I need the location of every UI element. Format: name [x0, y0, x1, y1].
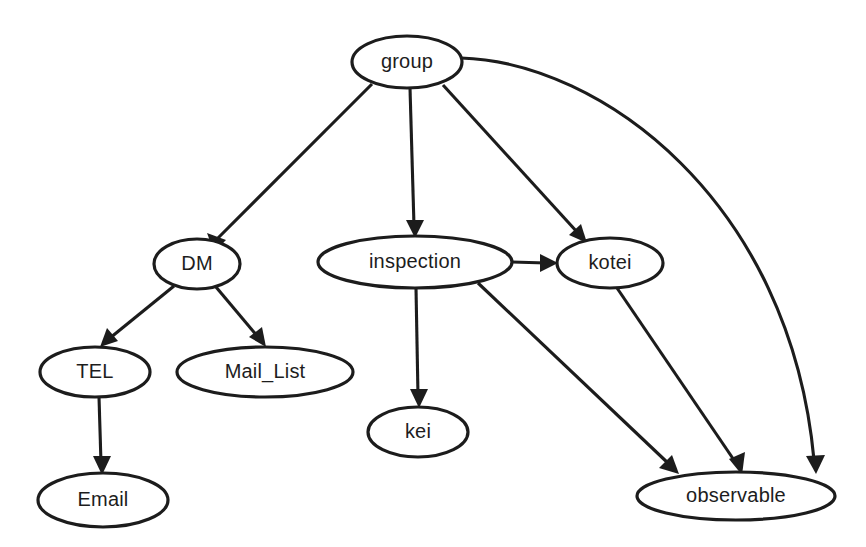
edge-line — [478, 283, 669, 464]
edge-kotei-to-observable — [617, 288, 745, 475]
arrowhead-icon — [410, 389, 428, 408]
node-label: Email — [77, 488, 128, 510]
node-kotei[interactable]: kotei — [557, 238, 663, 288]
node-label: Mail_List — [225, 360, 306, 383]
node-mail-list[interactable]: Mail_List — [177, 347, 353, 397]
edge-dm-to-maillist — [216, 287, 266, 347]
edge-line — [110, 286, 174, 338]
node-dm[interactable]: DM — [154, 239, 240, 289]
node-observable[interactable]: observable — [637, 472, 835, 520]
edge-tel-to-email — [93, 397, 111, 475]
node-layer: group DM inspection kotei TEL Mail_List … — [38, 36, 835, 527]
edge-line — [216, 287, 258, 337]
edge-inspection-to-kei — [410, 288, 428, 408]
node-label: DM — [181, 252, 213, 274]
node-tel[interactable]: TEL — [40, 347, 150, 397]
graph-diagram: group DM inspection kotei TEL Mail_List … — [0, 0, 866, 547]
node-group[interactable]: group — [352, 36, 462, 88]
edge-dm-to-tel — [100, 286, 174, 347]
edge-line — [416, 288, 418, 396]
node-label: group — [381, 50, 433, 72]
edge-line — [99, 397, 101, 463]
arrowhead-icon — [100, 328, 118, 347]
edge-line — [443, 85, 578, 233]
node-kei[interactable]: kei — [368, 407, 468, 457]
node-label: observable — [686, 484, 786, 506]
node-label: kei — [405, 420, 431, 442]
edge-line — [617, 288, 736, 463]
arrowhead-icon — [540, 254, 558, 272]
edge-inspection-to-observable — [478, 283, 679, 474]
arrowhead-icon — [806, 455, 825, 474]
node-inspection[interactable]: inspection — [318, 236, 512, 288]
edge-inspection-to-kotei — [512, 254, 558, 272]
edge-group-to-dm — [207, 84, 372, 252]
edge-group-to-inspection — [406, 88, 424, 238]
edge-line — [216, 84, 372, 240]
edge-line — [410, 88, 414, 226]
node-label: inspection — [369, 250, 461, 272]
node-label: kotei — [588, 251, 631, 273]
edge-group-to-kotei — [443, 85, 587, 243]
node-email[interactable]: Email — [38, 473, 168, 527]
node-label: TEL — [76, 360, 113, 382]
